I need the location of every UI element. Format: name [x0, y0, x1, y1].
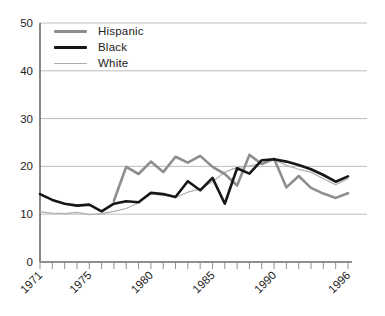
hispanic-line-swatch	[54, 30, 87, 33]
y-tick-label-0: 0	[27, 256, 33, 268]
y-tick-label-40: 40	[20, 65, 33, 77]
x-tick-label-1985: 1985	[190, 269, 217, 296]
chart-figure: 01020304050197119751980198519901996 Hisp…	[0, 0, 385, 316]
y-tick-label-20: 20	[20, 160, 33, 172]
x-tick-label-1996: 1996	[326, 269, 353, 296]
x-tick-label-1975: 1975	[67, 269, 94, 296]
legend-label-hispanic: Hispanic	[98, 26, 144, 38]
legend: Hispanic Black White	[54, 24, 144, 71]
black-line-swatch	[54, 46, 87, 49]
legend-label-white: White	[98, 58, 128, 70]
legend-label-black: Black	[98, 42, 127, 54]
x-tick-label-1980: 1980	[129, 269, 156, 296]
x-tick-label-1971: 1971	[18, 269, 45, 296]
legend-item-white: White	[54, 56, 144, 71]
legend-item-hispanic: Hispanic	[54, 24, 144, 39]
white-line-swatch	[54, 63, 87, 64]
legend-item-black: Black	[54, 40, 144, 55]
y-tick-label-50: 50	[20, 17, 33, 29]
x-tick-label-1990: 1990	[252, 269, 279, 296]
y-tick-label-10: 10	[20, 208, 33, 220]
series-line-black	[40, 159, 348, 211]
y-tick-label-30: 30	[20, 113, 33, 125]
